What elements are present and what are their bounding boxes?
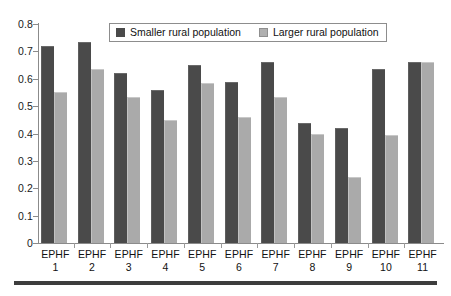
bar-smaller — [114, 73, 127, 243]
y-axis-tick-label: 0.1 — [3, 211, 33, 222]
x-axis-label-line1: EPHF — [225, 248, 253, 260]
x-axis-label-line2: 4 — [147, 261, 184, 274]
bar-smaller — [408, 62, 421, 243]
x-axis-label-line2: 1 — [37, 261, 74, 274]
y-axis-tick-label: 0.8 — [3, 19, 33, 30]
bar-larger — [91, 69, 104, 243]
x-axis-label-line1: EPHF — [41, 248, 69, 260]
bar-group — [114, 24, 140, 243]
bar-larger — [348, 177, 361, 243]
bar-larger — [385, 135, 398, 243]
x-axis-label: EPHF7 — [257, 248, 294, 273]
x-axis-label-line1: EPHF — [408, 248, 436, 260]
x-axis-label-line2: 5 — [184, 261, 221, 274]
bar-larger — [311, 134, 324, 244]
x-axis-label: EPHF4 — [147, 248, 184, 273]
legend-swatch-icon-dark — [116, 28, 125, 37]
x-axis-label-line2: 7 — [257, 261, 294, 274]
x-axis-label: EPHF11 — [404, 248, 441, 273]
x-axis-label-line1: EPHF — [188, 248, 216, 260]
x-axis-label-line2: 10 — [368, 261, 405, 274]
x-axis-label: EPHF6 — [221, 248, 258, 273]
bar-smaller — [261, 62, 274, 243]
y-axis-tick-label: 0.6 — [3, 74, 33, 85]
bar-larger — [274, 97, 287, 243]
y-axis-tick-label: 0.4 — [3, 129, 33, 140]
bar-larger — [127, 97, 140, 243]
bar-group — [298, 24, 324, 243]
x-axis-label: EPHF5 — [184, 248, 221, 273]
bar-group — [372, 24, 398, 243]
bar-smaller — [335, 128, 348, 243]
bar-group — [151, 24, 177, 243]
x-axis-line — [38, 243, 444, 244]
legend-entry-larger-rural-population: Larger rural population — [259, 27, 379, 38]
bar-smaller — [41, 46, 54, 243]
x-axis-label-line2: 8 — [294, 261, 331, 274]
y-axis-tick-label: 0.2 — [3, 183, 33, 194]
bar-group — [41, 24, 67, 243]
legend-swatch-icon-light — [259, 28, 268, 37]
bar-smaller — [78, 42, 91, 243]
plot-area — [39, 24, 443, 243]
x-axis-label-line1: EPHF — [115, 248, 143, 260]
x-axis-label-line2: 2 — [74, 261, 111, 274]
bar-smaller — [188, 65, 201, 243]
bar-smaller — [225, 82, 238, 244]
bar-larger — [201, 83, 214, 243]
y-axis-tick-label: 0 — [3, 238, 33, 249]
bar-smaller — [151, 90, 164, 243]
x-axis-label: EPHF9 — [331, 248, 368, 273]
y-axis-tick-label: 0.5 — [3, 101, 33, 112]
x-axis-label-line2: 3 — [110, 261, 147, 274]
bar-group — [261, 24, 287, 243]
bar-larger — [421, 62, 434, 243]
x-axis-label: EPHF2 — [74, 248, 111, 273]
bar-larger — [54, 92, 67, 243]
x-axis-label-line1: EPHF — [372, 248, 400, 260]
bar-group — [225, 24, 251, 243]
x-axis-label-line1: EPHF — [78, 248, 106, 260]
bar-smaller — [372, 69, 385, 243]
bar-larger — [238, 117, 251, 243]
x-axis-label-line1: EPHF — [262, 248, 290, 260]
chart-legend: Smaller rural population Larger rural po… — [109, 23, 387, 42]
x-axis-label-line2: 11 — [404, 261, 441, 274]
bar-group — [78, 24, 104, 243]
bar-larger — [164, 120, 177, 243]
x-axis-label: EPHF8 — [294, 248, 331, 273]
x-axis-label-line2: 6 — [221, 261, 258, 274]
x-axis-label-line1: EPHF — [151, 248, 179, 260]
legend-label-larger: Larger rural population — [273, 27, 379, 38]
legend-entry-smaller-rural-population: Smaller rural population — [116, 27, 241, 38]
x-axis-label-line2: 9 — [331, 261, 368, 274]
y-axis-tick-label: 0.3 — [3, 156, 33, 167]
legend-label-smaller: Smaller rural population — [130, 27, 241, 38]
bottom-horizontal-rule — [14, 281, 437, 285]
bar-group — [408, 24, 434, 243]
bar-smaller — [298, 123, 311, 243]
x-axis-label-line1: EPHF — [298, 248, 326, 260]
x-axis-label: EPHF1 — [37, 248, 74, 273]
x-axis-label: EPHF10 — [368, 248, 405, 273]
bar-group — [188, 24, 214, 243]
x-axis-label: EPHF3 — [110, 248, 147, 273]
bar-group — [335, 24, 361, 243]
x-axis-label-line1: EPHF — [335, 248, 363, 260]
y-axis-tick-label: 0.7 — [3, 46, 33, 57]
bar-chart-figure: 0.80.70.60.50.40.30.20.10 EPHF1EPHF2EPHF… — [0, 0, 451, 296]
